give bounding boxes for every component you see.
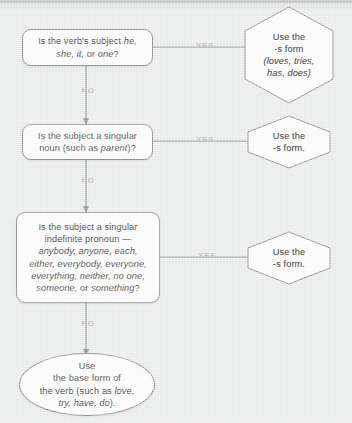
- edge-label-no-1: NO: [72, 85, 104, 96]
- outcome-node-s-form-examples-label: Use the-s form(loves, tries,has, does): [264, 31, 315, 80]
- decision-node-indefinite-pronoun[interactable]: Is the subject a singularindefinite pron…: [16, 212, 160, 303]
- outcome-node-base-form[interactable]: Usethe base form ofthe verb (such as lov…: [19, 353, 155, 416]
- edge-label-yes-3: YES: [188, 251, 226, 260]
- outcome-node-s-form-3-label: Use the-s form.: [273, 246, 305, 270]
- flowchart-canvas: Is the verb's subject he,she, it, or one…: [0, 0, 352, 423]
- decision-node-indefinite-pronoun-label: Is the subject a singularindefinite pron…: [29, 221, 147, 294]
- outcome-node-s-form-examples[interactable]: Use the-s form(loves, tries,has, does): [245, 7, 333, 103]
- decision-node-subject-pronoun[interactable]: Is the verb's subject he,she, it, or one…: [22, 29, 153, 66]
- outcome-node-s-form-2-label: Use the-s form.: [273, 130, 305, 154]
- decision-node-subject-pronoun-label: Is the verb's subject he,she, it, or one…: [38, 35, 137, 59]
- edge-label-no-3: NO: [72, 318, 104, 329]
- outcome-node-base-form-label: Usethe base form ofthe verb (such as lov…: [40, 360, 135, 409]
- edge-label-yes-1: YES: [186, 41, 224, 50]
- outcome-node-s-form-3[interactable]: Use the-s form.: [248, 232, 330, 284]
- edge-label-yes-2: YES: [186, 135, 224, 144]
- outcome-node-s-form-2[interactable]: Use the-s form.: [248, 116, 330, 168]
- edge-label-no-2: NO: [72, 175, 104, 186]
- decision-node-singular-noun-label: Is the subject a singularnoun (such as p…: [38, 130, 137, 154]
- decision-node-singular-noun[interactable]: Is the subject a singularnoun (such as p…: [22, 124, 153, 160]
